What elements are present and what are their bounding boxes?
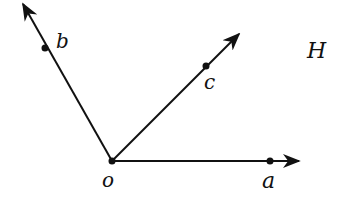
ray-ob — [23, 4, 112, 161]
point-c — [203, 63, 210, 70]
label-o: o — [102, 168, 114, 192]
ray-oc — [112, 34, 239, 161]
plane-label-h: H — [306, 38, 327, 63]
label-b: b — [56, 29, 69, 53]
point-o — [109, 158, 116, 165]
label-c: c — [204, 70, 215, 94]
point-b — [42, 45, 49, 52]
rays-diagram: o a b c H — [0, 0, 341, 217]
point-a — [267, 158, 274, 165]
label-a: a — [262, 168, 275, 193]
